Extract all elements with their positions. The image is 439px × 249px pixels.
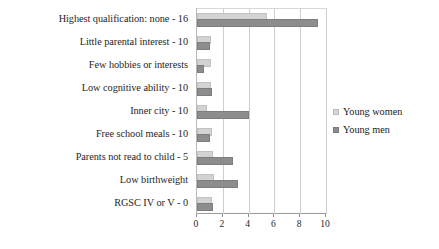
x-tick-label: 8 bbox=[297, 218, 302, 229]
x-axis: 0246810 bbox=[196, 214, 325, 236]
category-label: Highest qualification: none - 16 bbox=[0, 13, 188, 24]
x-tick-0 bbox=[196, 214, 197, 217]
bar-young-men bbox=[197, 111, 249, 119]
legend-swatch-icon bbox=[333, 109, 339, 115]
bar-group bbox=[197, 100, 326, 123]
category-label: RGSC IV or V - 0 bbox=[0, 197, 188, 208]
bar-young-men bbox=[197, 19, 318, 27]
x-tick-10 bbox=[325, 214, 326, 217]
legend-item[interactable]: Young men bbox=[333, 122, 437, 137]
x-tick-label: 4 bbox=[245, 218, 250, 229]
x-tick-8 bbox=[299, 214, 300, 217]
bar-young-men bbox=[197, 134, 210, 142]
plot-area bbox=[196, 8, 326, 214]
category-label: Few hobbies or interests bbox=[0, 59, 188, 70]
category-axis-labels: Highest qualification: none - 16Little p… bbox=[0, 8, 192, 214]
x-tick-label: 6 bbox=[271, 218, 276, 229]
bar-group bbox=[197, 31, 326, 54]
bar-young-men bbox=[197, 88, 212, 96]
x-tick-label: 2 bbox=[219, 218, 224, 229]
category-label: Inner city - 10 bbox=[0, 105, 188, 116]
x-tick-2 bbox=[222, 214, 223, 217]
x-tick-label: 10 bbox=[320, 218, 330, 229]
category-label: Parents not read to child - 5 bbox=[0, 151, 188, 162]
category-label: Low birthweight bbox=[0, 174, 188, 185]
bar-group bbox=[197, 122, 326, 145]
chart-legend: Young womenYoung men bbox=[333, 104, 437, 140]
category-label: Low cognitive ability - 10 bbox=[0, 82, 188, 93]
bar-young-men bbox=[197, 203, 213, 211]
category-label: Little parental interest - 10 bbox=[0, 36, 188, 47]
bar-group bbox=[197, 77, 326, 100]
bar-young-men bbox=[197, 65, 204, 73]
legend-label: Young women bbox=[343, 106, 402, 117]
gridline-x-10 bbox=[326, 8, 327, 214]
bar-group bbox=[197, 168, 326, 191]
legend-item[interactable]: Young women bbox=[333, 104, 437, 119]
category-label: Free school meals - 10 bbox=[0, 128, 188, 139]
bar-young-men bbox=[197, 180, 238, 188]
bar-group bbox=[197, 54, 326, 77]
legend-swatch-icon bbox=[333, 127, 339, 133]
legend-label: Young men bbox=[343, 124, 390, 135]
x-tick-4 bbox=[248, 214, 249, 217]
bar-young-men bbox=[197, 157, 233, 165]
bar-group bbox=[197, 145, 326, 168]
bar-group bbox=[197, 191, 326, 214]
bar-group bbox=[197, 8, 326, 31]
x-tick-6 bbox=[273, 214, 274, 217]
horizontal-bar-chart: Highest qualification: none - 16Little p… bbox=[0, 0, 439, 249]
bar-young-men bbox=[197, 42, 210, 50]
x-tick-label: 0 bbox=[194, 218, 199, 229]
